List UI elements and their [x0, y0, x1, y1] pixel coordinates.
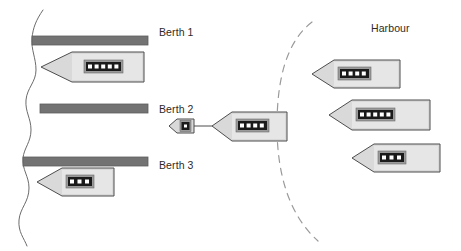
berth-3-label: Berth 3: [159, 159, 194, 171]
berth-1-label: Berth 1: [159, 26, 194, 38]
berth-bar-3: [23, 157, 148, 166]
tug-mid-channel: [169, 119, 194, 133]
berth-bar-2: [40, 104, 148, 113]
ship-under-tow: [212, 112, 287, 141]
harbour-label: Harbour: [371, 22, 410, 34]
diagram-canvas: [0, 0, 461, 251]
ship-harbour-3: [352, 144, 440, 172]
ship-harbour-1: [312, 60, 400, 88]
berth-2-label: Berth 2: [159, 103, 194, 115]
ship-harbour-2: [329, 100, 430, 130]
ship-berth-3: [37, 168, 114, 196]
harbour-diagram: Berth 1 Berth 2 Berth 3 Harbour: [0, 0, 461, 251]
berth-bar-1: [32, 36, 148, 45]
ship-berth-1: [41, 52, 144, 82]
coastline: [19, 10, 43, 246]
